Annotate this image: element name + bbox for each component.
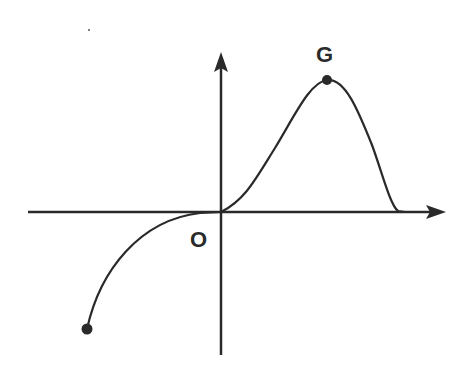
- function-graph-diagram: O G: [0, 0, 468, 365]
- graph-canvas: [0, 0, 468, 365]
- point-left-endpoint: [82, 324, 93, 335]
- peak-label: G: [316, 42, 333, 68]
- curve-right-branch: [221, 80, 405, 212]
- point-g: [322, 75, 332, 85]
- stray-mark: [88, 29, 90, 31]
- origin-label: O: [190, 227, 207, 253]
